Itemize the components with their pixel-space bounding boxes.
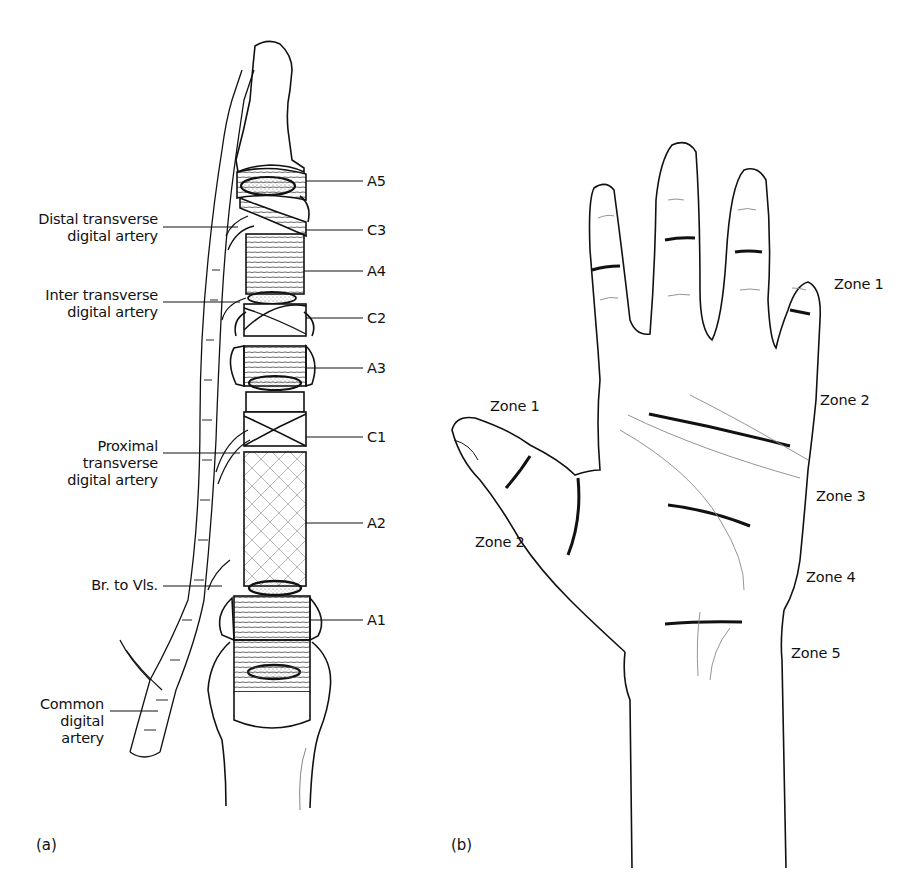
pulley-c3	[240, 198, 306, 236]
panel-b-drawing	[452, 143, 820, 868]
pulley-leader-lines	[304, 181, 363, 620]
label-c1: C1	[367, 429, 386, 446]
label-finger-zone-2: Zone 2	[820, 392, 870, 409]
hand-outline	[452, 143, 820, 868]
palm-creases	[598, 199, 808, 680]
label-common-digital-artery: Common digital artery	[40, 696, 104, 747]
label-a2: A2	[367, 515, 386, 532]
pulley-c2	[235, 304, 314, 336]
label-distal-transverse-artery: Distal transverse digital artery	[38, 211, 158, 245]
panel-label-b: (b)	[451, 836, 472, 854]
pulley-a4	[246, 234, 304, 294]
label-zone-4: Zone 4	[806, 569, 856, 586]
label-thumb-zone-2: Zone 2	[475, 534, 525, 551]
label-zone-3: Zone 3	[816, 488, 866, 505]
distal-phalanx	[236, 41, 304, 172]
sheath-opening-a5	[241, 177, 295, 195]
label-c3: C3	[367, 222, 386, 239]
zone-boundary-lines	[506, 238, 810, 624]
panel-a-drawing	[110, 41, 363, 810]
finger-base-outline	[208, 642, 230, 806]
label-a4: A4	[367, 263, 386, 280]
label-proximal-transverse-artery: Proximal transverse digital artery	[67, 438, 158, 489]
label-br-to-vls: Br. to Vls.	[91, 577, 158, 594]
label-inter-transverse-artery: Inter transverse digital artery	[45, 287, 158, 321]
pulley-a2	[244, 452, 306, 586]
label-c2: C2	[367, 310, 386, 327]
flexor-tendon-stump	[234, 692, 310, 728]
label-a5: A5	[367, 173, 386, 190]
label-finger-zone-1: Zone 1	[834, 276, 884, 293]
label-a3: A3	[367, 360, 386, 377]
label-thumb-zone-1: Zone 1	[490, 398, 540, 415]
pulley-a1	[220, 596, 322, 692]
panel-label-a: (a)	[36, 836, 57, 854]
pulley-c1	[244, 412, 306, 446]
label-zone-5: Zone 5	[791, 645, 841, 662]
label-a1: A1	[367, 612, 386, 629]
pulley-a3	[230, 346, 314, 390]
